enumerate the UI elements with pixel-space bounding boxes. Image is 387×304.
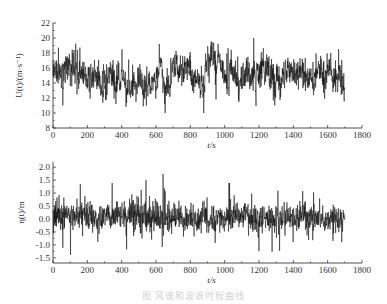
y-tick-label: 18 <box>41 48 51 58</box>
y-tick-label: 0.0 <box>39 214 51 224</box>
x-tick-label: 200 <box>81 130 95 140</box>
y-tick-label: 22 <box>41 18 50 28</box>
x-tick-label: 400 <box>115 265 129 275</box>
y-tick-label: 0.5 <box>39 201 51 211</box>
x-tick-label: 600 <box>149 130 163 140</box>
y-tick-label: -0.5 <box>36 227 51 237</box>
y-tick-label: 8 <box>46 123 51 133</box>
x-tick-label: 400 <box>115 130 129 140</box>
series-line <box>53 174 345 255</box>
y-tick-label: 14 <box>41 78 51 88</box>
y-tick-label: 16 <box>41 63 51 73</box>
x-tick-label: 1800 <box>353 265 372 275</box>
figure: 0200400600800100012001400160018008101214… <box>0 0 387 304</box>
wave-elevation-plot: 020040060080010001200140016001800-1.5-1.… <box>16 162 372 285</box>
y-tick-label: 12 <box>41 93 50 103</box>
x-tick-label: 800 <box>184 265 198 275</box>
y-axis-label: U(t)/(m·s⁻¹) <box>14 53 24 98</box>
x-tick-label: 1400 <box>284 130 303 140</box>
x-tick-label: 1200 <box>250 265 269 275</box>
y-axis-label: η(t)/m <box>16 201 26 224</box>
x-tick-label: 1000 <box>216 130 235 140</box>
y-tick-label: 1.5 <box>39 175 51 185</box>
x-tick-label: 1600 <box>319 130 338 140</box>
y-tick-label: -1.0 <box>36 240 51 250</box>
y-tick-label: 20 <box>41 33 51 43</box>
figure-caption: 图 风速和波浪时程曲线 <box>0 289 387 302</box>
x-tick-label: 1600 <box>319 265 338 275</box>
x-axis-label: t/s <box>207 140 216 150</box>
y-tick-label: 1.0 <box>39 188 51 198</box>
series-line <box>53 38 345 113</box>
x-tick-label: 800 <box>184 130 198 140</box>
x-tick-label: 1200 <box>250 130 269 140</box>
x-tick-label: 0 <box>51 265 56 275</box>
x-tick-label: 600 <box>149 265 163 275</box>
x-tick-label: 1400 <box>284 265 303 275</box>
x-tick-label: 200 <box>81 265 95 275</box>
x-tick-label: 1800 <box>353 130 372 140</box>
x-axis-label: t/s <box>207 275 216 285</box>
x-tick-label: 0 <box>51 130 56 140</box>
y-tick-label: 2.0 <box>39 162 51 172</box>
x-tick-label: 1000 <box>216 265 235 275</box>
wind-speed-plot: 0200400600800100012001400160018008101214… <box>14 18 372 150</box>
y-tick-label: 10 <box>41 108 51 118</box>
y-tick-label: -1.5 <box>36 253 51 263</box>
